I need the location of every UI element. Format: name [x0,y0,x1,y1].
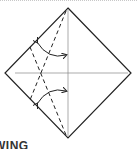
fold-diagram [0,0,137,149]
step-caption: WING [0,139,29,149]
